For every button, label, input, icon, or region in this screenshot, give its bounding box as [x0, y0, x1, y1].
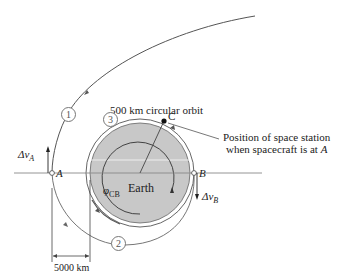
orbit-title: 500 km circular orbit: [110, 104, 203, 116]
point-a-dot: [50, 171, 55, 176]
point-b-dot: [192, 171, 197, 176]
orbit-marker-2: 2: [111, 236, 126, 251]
orbit-marker-3: 3: [103, 112, 118, 127]
station-note-1: Position of space station: [223, 131, 330, 143]
delta-va-label: ΔvA: [18, 148, 34, 165]
point-b-label: B: [199, 167, 206, 179]
earth-label: Earth: [128, 182, 154, 194]
delta-va-arrow: [46, 146, 50, 152]
delta-vb-label: ΔvB: [202, 190, 218, 207]
station-note-2: when spacecraft is at A: [226, 143, 327, 155]
point-c-label: C: [168, 110, 175, 122]
orbit-marker-1: 1: [61, 107, 76, 122]
distance-label: 5000 km: [54, 262, 89, 274]
point-a-label: A: [56, 167, 63, 179]
point-c-dot: [161, 118, 166, 123]
delta-vb-arrow: [195, 194, 199, 200]
phi-label: φCB: [103, 184, 120, 201]
